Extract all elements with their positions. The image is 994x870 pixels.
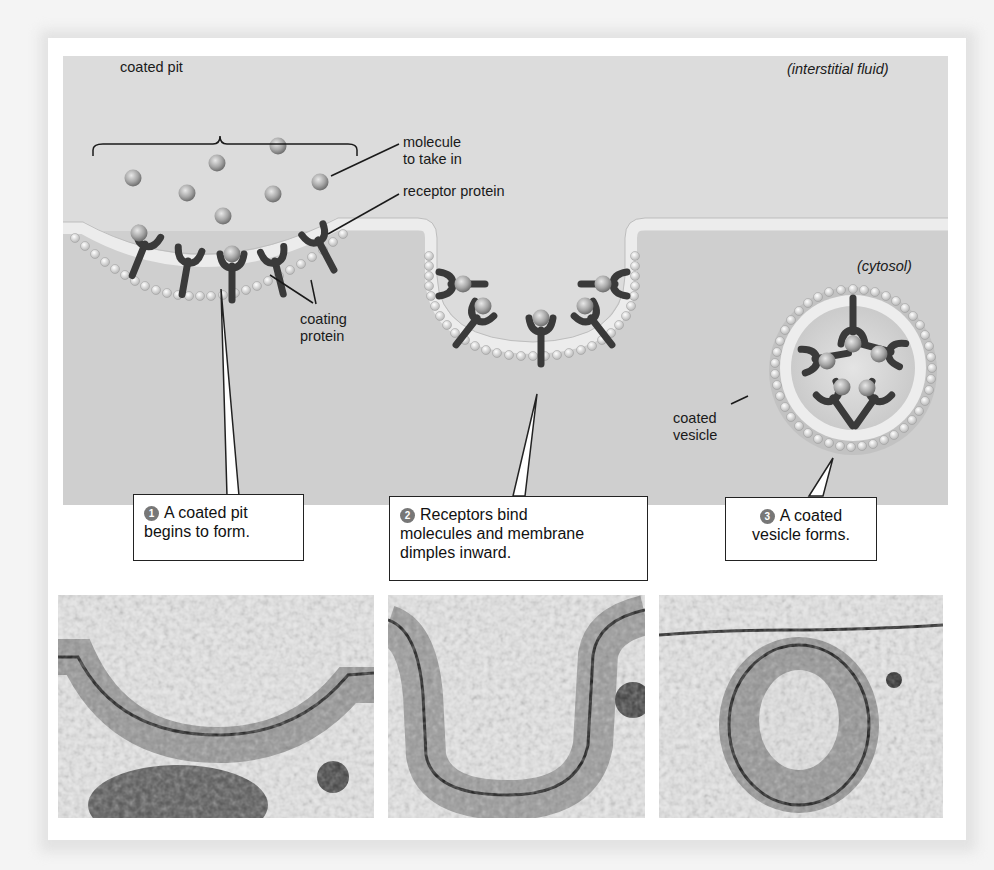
label-molecule-line1: molecule [403, 134, 461, 151]
step-text-line2: vesicle forms. [752, 526, 850, 543]
step-1-callout: 1A coated pit begins to form. [133, 494, 304, 561]
step-3-callout: 3A coated vesicle forms. [725, 497, 877, 561]
step-number-badge: 3 [760, 509, 775, 524]
diagram-art [63, 56, 948, 505]
micrograph-coated-pit [58, 595, 374, 818]
coated-pit-bracket [93, 136, 357, 156]
label-interstitial-fluid: (interstitial fluid) [787, 61, 889, 78]
step-text-line2: begins to form. [144, 523, 250, 540]
micrograph-dimpling [388, 595, 645, 818]
label-cytosol: (cytosol) [857, 258, 912, 275]
label-coated-pit: coated pit [120, 59, 183, 76]
label-coated-vesicle-line2: vesicle [673, 427, 717, 444]
endocytosis-diagram: coated pit (interstitial fluid) (cytosol… [63, 56, 948, 505]
step-2-callout: 2Receptors bind molecules and membrane d… [389, 496, 648, 581]
label-coating-line1: coating [300, 311, 347, 328]
label-molecule-line2: to take in [403, 151, 462, 168]
step-text-line2: molecules and membrane [400, 525, 584, 542]
label-receptor-protein: receptor protein [403, 183, 505, 200]
step-number-badge: 2 [400, 508, 415, 523]
step-text-line1: A coated [780, 507, 842, 524]
step-text-line1: A coated pit [164, 504, 248, 521]
label-coated-vesicle-line1: coated [673, 410, 717, 427]
step-text-line3: dimples inward. [400, 544, 511, 561]
label-coating-line2: protein [300, 328, 344, 345]
step-number-badge: 1 [144, 506, 159, 521]
step-text-line1: Receptors bind [420, 506, 528, 523]
micrograph-vesicle [659, 595, 943, 818]
molecule-leader [331, 144, 399, 176]
free-molecules [125, 138, 329, 225]
